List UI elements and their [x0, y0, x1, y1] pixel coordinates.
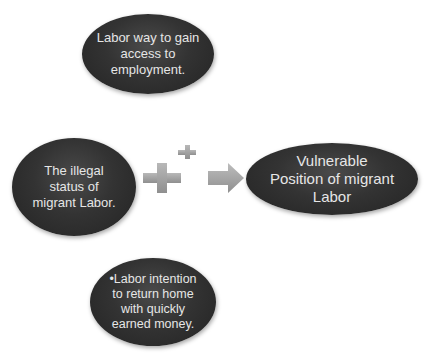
- node-text-line: employment.: [97, 62, 200, 78]
- node-text-line: •Labor intention: [109, 272, 196, 287]
- node-illegal-status: The illegal status of migrant Labor.: [12, 138, 136, 236]
- node-labor-access-employment: Labor way to gain access to employment.: [82, 14, 214, 94]
- node-text-line: access to: [97, 46, 200, 62]
- node-text-line: Labor way to gain: [97, 30, 200, 46]
- node-text-line: Labor: [270, 188, 394, 206]
- node-return-home-intention: •Labor intention to return home with qui…: [90, 258, 216, 346]
- plus-icon-small: [178, 145, 196, 159]
- node-text-line: Position of migrant: [270, 170, 394, 188]
- node-text-line: with quickly: [109, 302, 196, 317]
- node-text-line: The illegal: [32, 163, 115, 179]
- node-vulnerable-position: Vulnerable Position of migrant Labor: [246, 143, 418, 215]
- node-text-line: status of: [32, 179, 115, 195]
- node-text-line: migrant Labor.: [32, 195, 115, 211]
- node-text-line: earned money.: [109, 317, 196, 332]
- arrow-right-icon: [208, 163, 244, 193]
- plus-icon-large: [143, 163, 181, 193]
- node-text-line: Vulnerable: [270, 152, 394, 170]
- node-text-line: to return home: [109, 287, 196, 302]
